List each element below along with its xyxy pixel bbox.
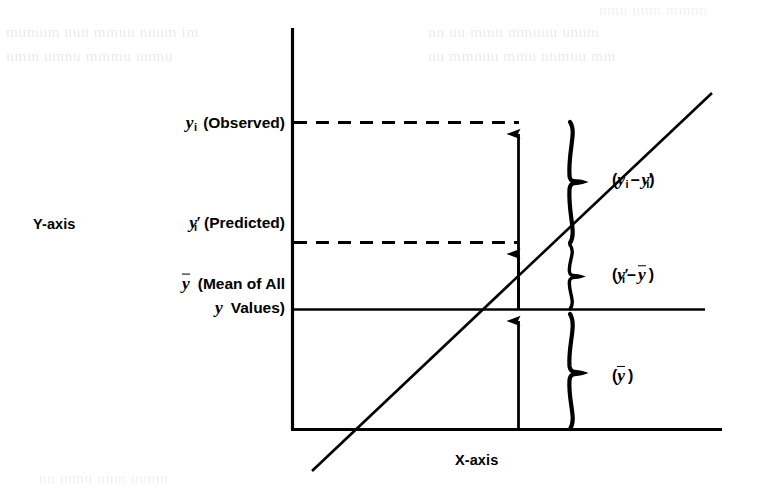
label-predicted: y′i(Predicted) [189,211,285,235]
brace-label-residual: (yi–y′i) [612,168,655,192]
paren-close: ) [628,367,633,384]
term1-symbol: y [617,366,625,385]
label-observed: yi(Observed) [186,111,285,135]
label-mean-line2: yValues) [182,295,285,320]
observed-subscript: i [194,121,197,133]
brace-label-mean: (y) [612,364,633,386]
label-mean: y(Mean of All yValues) [182,272,285,321]
term2-symbol: y [638,265,646,284]
mean-symbol: y [182,274,190,293]
term1-symbol: y [617,169,625,189]
brace-mean [569,314,582,429]
mean-line1-text: (Mean of All [198,275,285,292]
observed-symbol: y [186,112,194,132]
regression-deviation-figure: mumum nun mmuu nnum im nmm umnu mmmu nnm… [0,0,766,497]
x-axis-label: X-axis [455,452,498,468]
brace-residual [569,122,582,243]
predicted-subscript: i [194,221,197,233]
y-axis-label: Y-axis [33,216,76,232]
predicted-text: (Predicted) [204,214,285,231]
paren-close: ) [649,266,654,283]
diagram-canvas [0,0,766,497]
mean-line2-text: Values) [231,299,285,316]
observed-text: (Observed) [203,114,285,131]
brace-explained [569,245,580,309]
mean-line2-symbol: y [215,297,223,317]
operator: – [629,171,642,188]
paren-close: ) [649,171,654,188]
brace-label-explained: (y′i–y) [612,263,654,287]
label-mean-line1: y(Mean of All [182,272,285,295]
operator: – [625,266,638,283]
